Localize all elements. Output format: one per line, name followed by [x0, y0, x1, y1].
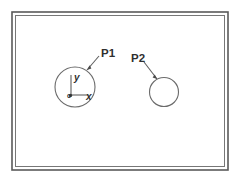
part-label-p2: P2 — [131, 52, 145, 64]
x-axis-label: x — [85, 91, 92, 102]
leader-p1 — [87, 56, 99, 70]
leader-p2 — [144, 62, 157, 79]
diagram-canvas: P1 P2 y x o — [0, 0, 240, 184]
part-p2[interactable] — [144, 62, 179, 107]
diagram-svg: P1 P2 y x o — [0, 0, 240, 184]
drawing-border — [12, 12, 228, 170]
drawing-border-inner — [16, 16, 225, 167]
drawing-border-outer — [12, 12, 228, 170]
leader-p2-arrowhead — [153, 75, 157, 79]
origin-label: o — [67, 92, 71, 99]
part-p2-circle[interactable] — [150, 78, 179, 107]
part-label-p1: P1 — [101, 47, 116, 59]
y-axis-label: y — [73, 72, 80, 83]
